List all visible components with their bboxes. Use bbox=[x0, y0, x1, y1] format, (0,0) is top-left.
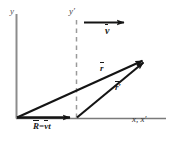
vector-r-label-text: r bbox=[100, 64, 104, 73]
y-axis-label: y bbox=[10, 7, 14, 16]
vector-r-arrow bbox=[17, 61, 143, 118]
vector-R-label-v: v bbox=[44, 122, 48, 131]
vector-R-label: R=vt bbox=[33, 122, 51, 131]
vector-r-label: r bbox=[100, 64, 104, 73]
vector-r-prime-label-text: r′ bbox=[115, 83, 121, 92]
vector-r-prime-label: r′ bbox=[115, 83, 121, 92]
velocity-vector-label: v bbox=[105, 26, 109, 36]
vector-R-label-t: t bbox=[48, 121, 51, 131]
vector-r-prime-arrow bbox=[77, 63, 144, 118]
vector-R-label-base: R bbox=[33, 122, 39, 131]
velocity-vector-label-text: v bbox=[105, 26, 109, 36]
x-axis-label: x, x′ bbox=[132, 115, 146, 124]
y-prime-axis-label: y′ bbox=[69, 7, 75, 16]
galilean-transformation-figure: y y′ x, x′ v r r′ R=vt bbox=[0, 0, 172, 144]
